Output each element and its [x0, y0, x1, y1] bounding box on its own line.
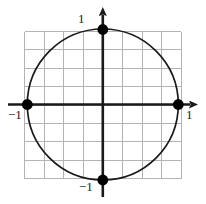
plot-area — [0, 0, 206, 204]
point-top — [97, 24, 108, 35]
point-bottom — [97, 175, 108, 186]
point-label-right: 1 — [186, 108, 193, 121]
point-label-bottom: −1 — [79, 180, 93, 193]
unit-circle-figure: 1 −1 1 −1 — [0, 0, 206, 204]
point-right — [173, 99, 184, 110]
point-label-top: 1 — [78, 12, 85, 25]
point-left — [22, 99, 33, 110]
point-label-left: −1 — [8, 108, 22, 121]
